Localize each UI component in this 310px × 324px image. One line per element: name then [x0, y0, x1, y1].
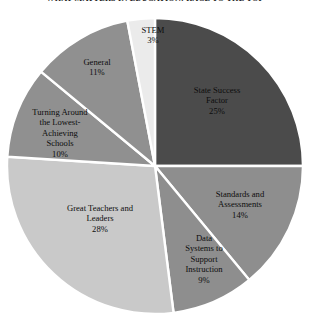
- pie-slice-state-success-factor: [155, 18, 303, 166]
- pie-slice-great-teachers-and-leaders: [7, 157, 174, 314]
- chart-title: WHAT MATTERS IN EDUCATION: RACE TO THE T…: [0, 0, 310, 2]
- pie-slice-group: [7, 18, 303, 314]
- pie-chart: STEM 3% State Success Factor 25% General…: [6, 11, 304, 321]
- pie-chart-svg: [6, 11, 304, 321]
